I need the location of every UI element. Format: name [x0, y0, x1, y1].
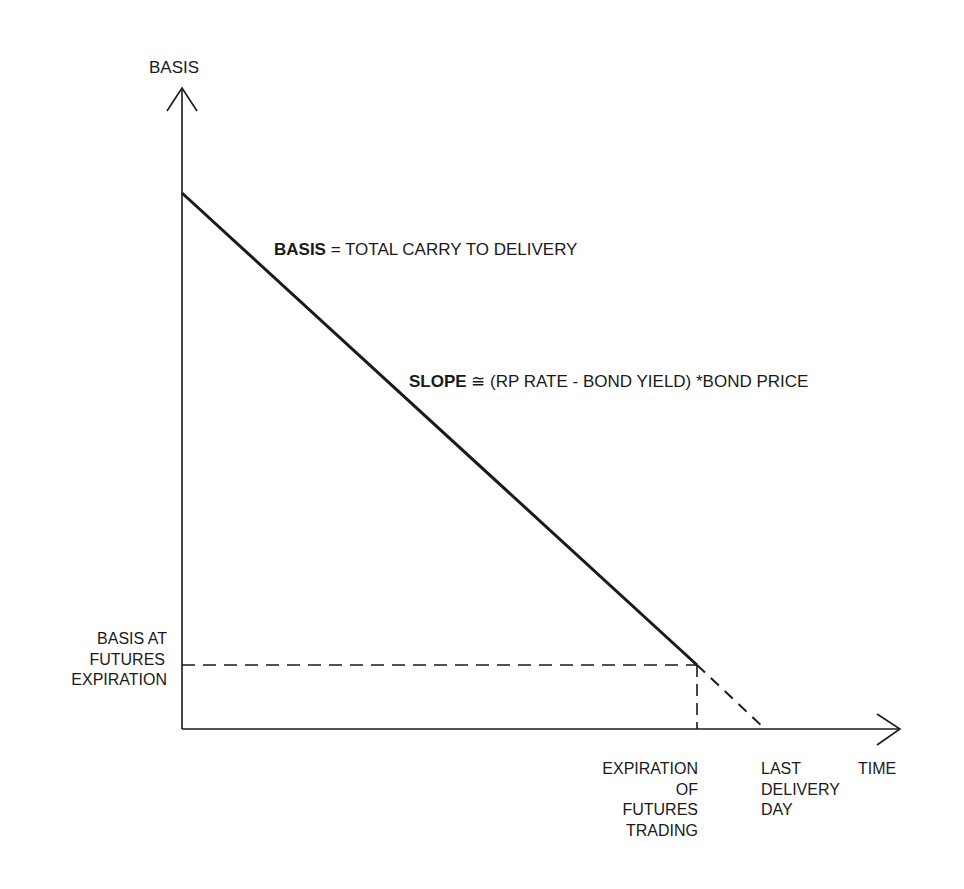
slope-equation-term: SLOPE	[409, 372, 467, 391]
last-delivery-day-label: LAST DELIVERY DAY	[761, 759, 840, 821]
label-line: FUTURES	[40, 650, 167, 671]
basis-equation: BASIS = TOTAL CARRY TO DELIVERY	[274, 240, 577, 260]
label-line: OF	[580, 780, 698, 801]
label-line: DELIVERY	[761, 780, 840, 801]
label-line: DAY	[761, 800, 840, 821]
basis-extension-dashed	[697, 665, 765, 729]
basis-line	[182, 193, 697, 665]
slope-equation-rest: ≅ (RP RATE - BOND YIELD) *BOND PRICE	[467, 372, 809, 391]
label-line: BASIS AT	[40, 629, 167, 650]
x-axis-label: TIME	[858, 759, 896, 779]
label-line: EXPIRATION	[40, 670, 167, 691]
basis-equation-term: BASIS	[274, 240, 326, 259]
label-line: TRADING	[580, 821, 698, 842]
y-axis-label: BASIS	[149, 58, 199, 78]
slope-equation: SLOPE ≅ (RP RATE - BOND YIELD) *BOND PRI…	[409, 372, 808, 392]
label-line: LAST	[761, 759, 840, 780]
basis-equation-rest: = TOTAL CARRY TO DELIVERY	[326, 240, 578, 259]
basis-at-expiration-label: BASIS AT FUTURES EXPIRATION	[40, 629, 167, 691]
label-line: EXPIRATION	[580, 759, 698, 780]
expiration-of-futures-trading-label: EXPIRATION OF FUTURES TRADING	[580, 759, 698, 841]
diagram-canvas	[0, 0, 964, 889]
label-line: FUTURES	[580, 800, 698, 821]
